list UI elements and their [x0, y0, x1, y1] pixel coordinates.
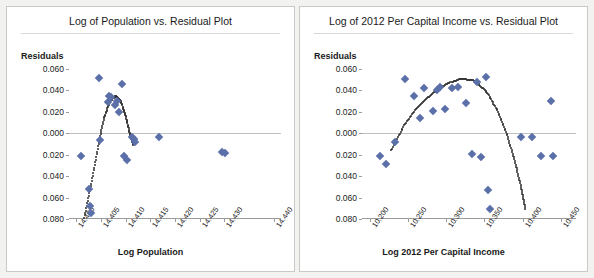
fit-curve-dot [92, 172, 94, 174]
fit-curve-dot [88, 195, 90, 197]
y-tick-label: 0.080 [43, 214, 64, 224]
fit-curve-dot [84, 214, 86, 216]
data-point [477, 153, 485, 161]
fit-curve-dot [94, 161, 96, 163]
y-tick-mark [359, 219, 362, 220]
data-point [429, 107, 437, 115]
fit-curve-dot [100, 131, 102, 133]
fit-curve-dot [102, 121, 104, 123]
fit-curve-dot [97, 145, 99, 147]
data-point [118, 80, 126, 88]
plot-area-income: 0.0600.0400.0200.0000.0200.0400.0600.080… [362, 69, 576, 219]
y-tick-mark [359, 198, 362, 199]
fit-curve-dot [95, 159, 97, 161]
data-point [416, 114, 424, 122]
y-tick-label: 0.040 [43, 171, 64, 181]
fit-curve-dot [91, 177, 93, 179]
data-point [420, 84, 428, 92]
y-axis-label-population: Residuals [21, 51, 64, 61]
data-point [547, 97, 555, 105]
fit-curve-dot [83, 217, 85, 219]
fit-curve-dot [87, 197, 89, 199]
fit-curve-dot [93, 167, 95, 169]
fit-curve-dot [96, 151, 98, 153]
fit-curve-dot [96, 153, 98, 155]
fit-curve-dot [97, 148, 99, 150]
y-tick-label: 0.060 [43, 64, 64, 74]
x-axis-label-population: Log Population [7, 247, 294, 257]
data-point [454, 83, 462, 91]
data-point [537, 152, 545, 160]
y-tick-label: 0.020 [43, 150, 64, 160]
y-tick-label: 0.060 [336, 193, 357, 203]
y-tick-label: 0.040 [336, 85, 357, 95]
y-tick-mark [66, 133, 69, 134]
y-tick-mark [66, 198, 69, 199]
data-point [440, 104, 448, 112]
x-axis-line [362, 218, 576, 219]
data-point [401, 74, 409, 82]
data-point [95, 73, 103, 81]
y-tick-label: 0.060 [43, 193, 64, 203]
data-point [77, 152, 85, 160]
y-tick-mark [66, 219, 69, 220]
data-point [482, 72, 490, 80]
y-tick-mark [66, 112, 69, 113]
figure-container: Log of Population vs. Residual Plot Resi… [0, 0, 594, 278]
y-tick-label: 0.020 [43, 107, 64, 117]
fit-curve-dot [103, 119, 105, 121]
y-tick-mark [66, 90, 69, 91]
data-point [85, 185, 93, 193]
y-tick-label: 0.000 [43, 128, 64, 138]
y-tick-mark [359, 155, 362, 156]
data-point [549, 152, 557, 160]
chart-panel-population: Log of Population vs. Residual Plot Resi… [6, 6, 295, 272]
y-tick-label: 0.060 [336, 64, 357, 74]
fit-curve-dot [92, 175, 94, 177]
y-tick-mark [359, 90, 362, 91]
y-tick-label: 0.020 [336, 107, 357, 117]
fit-curve-dot [101, 127, 103, 129]
plot-area-population: 0.0600.0400.0200.0000.0200.0400.0600.080… [69, 69, 281, 219]
chart-title-income: Log of 2012 Per Capital Income vs. Resid… [300, 15, 587, 27]
y-tick-label: 0.080 [336, 214, 357, 224]
x-axis-label-income: Log 2012 Per Capital Income [300, 247, 587, 257]
data-point [375, 152, 383, 160]
data-point [221, 148, 229, 156]
zero-reference-line [362, 133, 576, 134]
y-tick-label: 0.020 [336, 150, 357, 160]
data-point [410, 92, 418, 100]
title-divider [21, 33, 280, 34]
fit-curve-dot [102, 123, 104, 125]
y-tick-mark [359, 112, 362, 113]
fit-curve-dot [90, 183, 92, 185]
y-tick-mark [359, 133, 362, 134]
y-tick-mark [66, 176, 69, 177]
fit-curve-dot [93, 169, 95, 171]
y-tick-mark [66, 155, 69, 156]
fit-curve-dot [101, 125, 103, 127]
data-point [95, 135, 103, 143]
fit-curve-dot [524, 208, 526, 210]
y-tick-mark [66, 69, 69, 70]
fit-curve-dot [91, 180, 93, 182]
chart-panel-income: Log of 2012 Per Capital Income vs. Resid… [299, 6, 588, 272]
y-tick-label: 0.040 [336, 171, 357, 181]
data-point [468, 149, 476, 157]
data-point [382, 160, 390, 168]
data-point [122, 156, 130, 164]
fit-curve-dot [95, 156, 97, 158]
title-divider [314, 33, 573, 34]
data-point [484, 186, 492, 194]
y-tick-mark [359, 176, 362, 177]
y-axis-label-income: Residuals [314, 51, 357, 61]
data-point [462, 99, 470, 107]
fit-curve-dot [94, 164, 96, 166]
y-tick-label: 0.040 [43, 85, 64, 95]
fit-curve-dot [85, 210, 87, 212]
fit-curve-dot [100, 129, 102, 131]
chart-panels: Log of Population vs. Residual Plot Resi… [6, 6, 588, 272]
chart-title-population: Log of Population vs. Residual Plot [7, 15, 294, 27]
y-tick-label: 0.000 [336, 128, 357, 138]
y-tick-mark [359, 69, 362, 70]
